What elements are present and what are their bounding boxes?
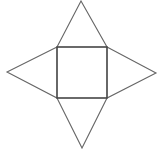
net-svg [0,0,166,151]
triangle-top [57,1,107,47]
base-square [57,47,107,98]
triangle-bottom [57,98,107,148]
triangle-right [107,47,156,98]
pyramid-net-diagram [0,0,166,151]
triangle-left [7,47,57,98]
